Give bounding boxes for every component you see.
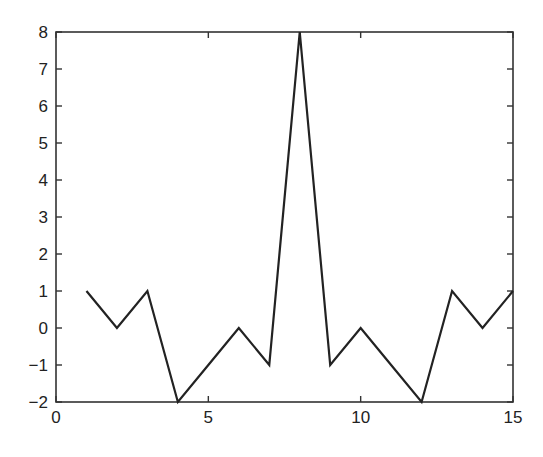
tick-label: 10 <box>351 408 370 427</box>
tick-labels: 051015−2−1012345678 <box>29 23 523 427</box>
tick-label: 2 <box>39 245 48 264</box>
axis-ticks <box>56 32 513 402</box>
tick-label: −2 <box>29 393 48 412</box>
tick-label: 15 <box>504 408 523 427</box>
tick-label: 0 <box>51 408 60 427</box>
tick-label: 3 <box>39 208 48 227</box>
tick-label: 0 <box>39 319 48 338</box>
line-chart: 051015−2−1012345678 <box>0 0 543 457</box>
tick-label: 6 <box>39 97 48 116</box>
tick-label: 5 <box>204 408 213 427</box>
data-line <box>86 32 513 402</box>
tick-label: 5 <box>39 134 48 153</box>
plot-frame <box>56 32 513 402</box>
tick-label: −1 <box>29 356 48 375</box>
tick-label: 1 <box>39 282 48 301</box>
tick-label: 7 <box>39 60 48 79</box>
tick-label: 8 <box>39 23 48 42</box>
tick-label: 4 <box>39 171 48 190</box>
